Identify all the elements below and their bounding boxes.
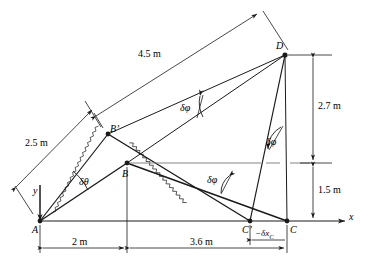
delta-xc-subscript: C [269,233,274,241]
angle-arc-delta-phi-C [221,175,231,194]
angle-label-delta-phi-D: δφ [266,136,276,147]
point-label-D: D [276,40,283,51]
dimension-label-2p5m: 2.5 m [25,137,48,148]
point-label-C-prime: C’ [242,224,252,235]
figure-canvas: A B B’ C C’ D x y 2.5 m 4.5 m 2.7 m 1.5 … [0,0,369,267]
delta-xc-main: −δx [255,228,269,238]
point-label-C: C [290,224,297,235]
dimension-label-2m: 2 m [72,236,87,247]
bar-BC-displaced [108,134,250,221]
dimension-label-3p6m: 3.6 m [190,236,213,247]
dimension-label-2p7m: 2.7 m [318,100,341,111]
point-label-B: B [122,168,128,179]
angle-label-delta-phi-B: δφ [180,102,190,113]
angle-arc-delta-phi-B [197,95,203,118]
bar-AB-displaced [40,126,108,221]
axis-label-x: x [349,211,353,222]
dimension-label-1p5m: 1.5 m [318,184,341,195]
dimension-label-4p5m: 4.5 m [138,48,161,59]
point-label-A: A [32,224,38,235]
dimension-4p5m [94,11,288,128]
bar-BD-original [127,55,285,163]
bar-BC-original [127,163,287,221]
link-DC-original [285,55,287,221]
angle-label-delta-phi-C: δφ [207,174,217,185]
diagram-svg [0,0,369,267]
point-label-B-prime: B’ [110,123,119,134]
dimension-label-delta-xc: −δxC [255,228,274,241]
angle-label-delta-theta: δθ [79,176,89,187]
axis-label-y: y [33,185,37,196]
bar-BD-displaced [108,55,285,134]
